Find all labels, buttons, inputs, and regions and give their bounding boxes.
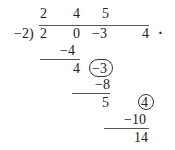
dividend-term-3: −3 — [92, 27, 107, 41]
dividend-term-2: 0 — [73, 27, 80, 41]
dividend-term-1: 2 — [40, 27, 47, 41]
step1-circled-term: −3 — [92, 62, 107, 76]
remainder: 14 — [134, 131, 148, 145]
step2-subtract: −8 — [95, 78, 110, 92]
divisor: −2) — [14, 27, 34, 41]
step3-line — [104, 128, 149, 129]
quotient-term-3: 5 — [102, 7, 109, 21]
step2-line — [72, 93, 110, 94]
step1-result: 4 — [73, 62, 80, 76]
step3-subtract: −10 — [124, 113, 146, 127]
quotient-term-1: 2 — [40, 7, 47, 21]
step1-subtract: −4 — [60, 44, 75, 58]
dividend-term-4: 4 — [142, 27, 149, 41]
step1-line — [40, 59, 80, 60]
step2-circled-term: 4 — [141, 96, 148, 110]
quotient-term-2: 4 — [73, 7, 80, 21]
trailing-mark: · — [158, 27, 163, 41]
step2-result: 5 — [102, 96, 109, 110]
